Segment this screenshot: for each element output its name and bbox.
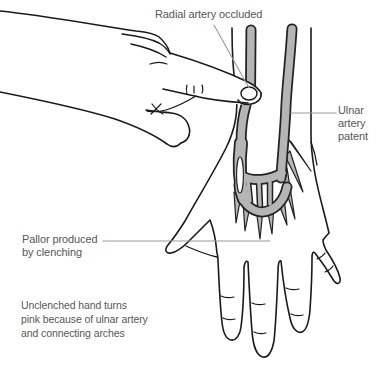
radial-artery-label: Radial artery occluded [155, 8, 262, 21]
examiner-hand-illustration [0, 11, 262, 147]
pallor-label: Pallor produced by clenching [22, 233, 98, 259]
ulnar-artery-label: Ulnar artery patent [338, 104, 368, 142]
arteries [234, 29, 311, 239]
radial-branch-window [237, 157, 244, 193]
allen-test-figure: Radial artery occluded Ulnar artery pate… [0, 0, 382, 365]
thumb-web-line [186, 246, 217, 257]
unclenched-note-label: Unclenched hand turns pink because of ul… [21, 299, 148, 340]
